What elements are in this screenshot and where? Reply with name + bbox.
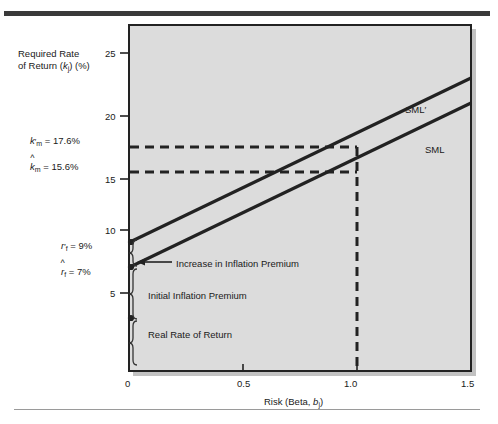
y-axis-ticks — [120, 53, 128, 293]
sml-chart-figure: Required Rate of Return (kj) (%) 25 20 1… — [0, 0, 498, 424]
brace-real-rate-of-return — [129, 321, 137, 365]
sml-line — [130, 103, 471, 267]
chart-vector-overlay — [0, 0, 498, 424]
marker-rf-hat — [128, 264, 134, 270]
sml-prime-line — [130, 78, 471, 242]
brace-initial-inflation-premium — [129, 269, 137, 319]
